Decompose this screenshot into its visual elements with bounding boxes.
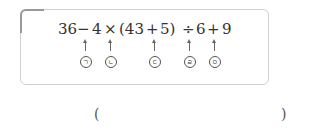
arrow-up-icon — [85, 41, 86, 51]
operator-minus: − — [77, 20, 90, 38]
answer-field[interactable] — [104, 104, 274, 122]
number-9: 9 — [222, 20, 232, 38]
arrow-up-icon — [154, 41, 155, 51]
arrow-up-icon — [110, 41, 111, 51]
number-43-open: (43 — [119, 20, 144, 38]
marker-mieum: ㅁ — [209, 56, 221, 68]
answer-open-paren: ( — [94, 106, 99, 122]
marker-rieul: ㄹ — [184, 56, 196, 68]
box-corner-accent — [20, 9, 44, 33]
marker-nieun: ㄴ — [105, 56, 117, 68]
operator-times: × — [104, 20, 117, 38]
operator-divide: ÷ — [182, 20, 195, 38]
number-4: 4 — [92, 20, 102, 38]
arrow-up-icon — [214, 41, 215, 51]
operator-plus-2: + — [207, 20, 220, 38]
number-6: 6 — [196, 20, 206, 38]
arrow-up-icon — [189, 41, 190, 51]
number-36: 36 — [58, 20, 77, 38]
number-5-close: 5) — [160, 20, 175, 38]
marker-giyeok: ㄱ — [80, 56, 92, 68]
marker-digeut: ㄷ — [149, 56, 161, 68]
answer-close-paren: ) — [281, 106, 286, 122]
operator-plus-1: + — [146, 20, 159, 38]
